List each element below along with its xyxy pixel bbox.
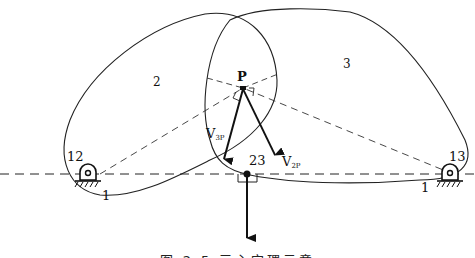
v3p-symbol: V xyxy=(206,126,215,141)
pivot-right-icon xyxy=(437,164,463,187)
label-pivot-12: 12 xyxy=(67,150,84,163)
diagram-canvas: 2 3 P 12 13 1 1 23 V3P V2P 图 2.5 三心定理示意 xyxy=(0,0,475,258)
label-body-3: 3 xyxy=(343,58,351,70)
velocity-v3p-arrow xyxy=(224,89,243,159)
label-ground-right: 1 xyxy=(421,181,429,194)
label-velocity-v2p: V2P xyxy=(282,155,301,170)
v2p-subscript: 2P xyxy=(291,162,300,170)
label-point-p: P xyxy=(237,70,247,83)
v3p-subscript: 3P xyxy=(215,134,224,142)
label-ground-left: 1 xyxy=(102,189,110,202)
pivot-left-icon xyxy=(75,164,101,187)
diagram-drawing xyxy=(0,0,475,258)
label-slider-23: 23 xyxy=(249,154,266,167)
v2p-symbol: V xyxy=(282,154,291,169)
body-3-outline xyxy=(205,9,468,183)
body-2-outline xyxy=(64,13,277,195)
figure-caption: 图 2.5 三心定理示意 xyxy=(0,250,475,258)
label-body-2: 2 xyxy=(153,76,161,88)
label-pivot-13: 13 xyxy=(449,150,466,163)
label-velocity-v3p: V3P xyxy=(206,127,225,142)
